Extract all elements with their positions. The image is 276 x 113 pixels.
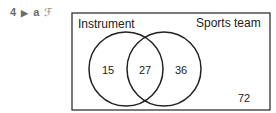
sports-team-only-value: 36 bbox=[175, 64, 187, 76]
instrument-label: Instrument bbox=[78, 17, 135, 31]
sports-team-label: Sports team bbox=[196, 16, 261, 30]
intersection-value: 27 bbox=[139, 64, 151, 76]
outside-value: 72 bbox=[238, 92, 250, 104]
venn-diagram: Instrument Sports team 15 27 36 72 bbox=[0, 0, 276, 113]
instrument-circle bbox=[89, 32, 163, 106]
instrument-only-value: 15 bbox=[102, 64, 114, 76]
